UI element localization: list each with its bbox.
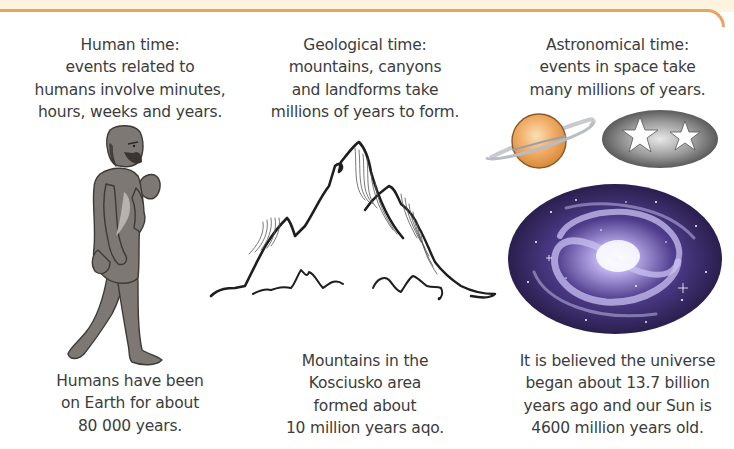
spiral-galaxy-icon (506, 182, 724, 336)
top-border-rule (0, 9, 725, 27)
astronomical-time-heading: Astronomical time: events in space take … (510, 34, 725, 101)
heading-line: many millions of years. (510, 79, 725, 101)
heading-line: hours, weeks and years. (30, 101, 230, 123)
astronomical-time-caption: It is believed the universe began about … (500, 350, 734, 439)
heading-line: mountains, canyons (255, 56, 475, 78)
caption-line: began about 13.7 billion (500, 372, 734, 394)
geological-time-caption: Mountains in the Kosciusko area formed a… (255, 350, 475, 439)
heading-line: events in space take (510, 56, 725, 78)
walking-early-human-icon (58, 122, 173, 372)
saturn-planet-icon (484, 108, 599, 174)
stars-oval-icon (600, 108, 720, 170)
mountains-icon (205, 138, 500, 303)
human-time-caption: Humans have been on Earth for about 80 0… (30, 370, 230, 437)
heading-line: Geological time: (255, 34, 475, 56)
caption-line: It is believed the universe (500, 350, 734, 372)
caption-line: on Earth for about (30, 392, 230, 414)
heading-line: humans involve minutes, (30, 79, 230, 101)
caption-line: Mountains in the (255, 350, 475, 372)
caption-line: Kosciusko area (255, 372, 475, 394)
heading-line: and landforms take (255, 79, 475, 101)
caption-line: formed about (255, 395, 475, 417)
heading-line: events related to (30, 56, 230, 78)
heading-line: Human time: (30, 34, 230, 56)
heading-line: millions of years to form. (255, 101, 475, 123)
human-time-heading: Human time: events related to humans inv… (30, 34, 230, 123)
caption-line: 4600 million years old. (500, 417, 734, 439)
caption-line: years ago and our Sun is (500, 395, 734, 417)
geological-time-heading: Geological time: mountains, canyons and … (255, 34, 475, 123)
caption-line: 80 000 years. (30, 415, 230, 437)
caption-line: 10 million years aqo. (255, 417, 475, 439)
heading-line: Astronomical time: (510, 34, 725, 56)
caption-line: Humans have been (30, 370, 230, 392)
